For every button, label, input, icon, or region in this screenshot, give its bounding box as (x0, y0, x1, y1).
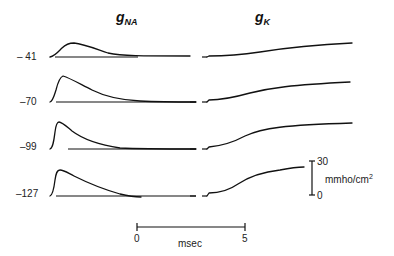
voltage-label-70: –70 (20, 96, 37, 107)
gna-title: gNA (115, 9, 138, 27)
voltage-label-127: –127 (16, 188, 39, 199)
time-scale-bar: 0 5 msec (134, 223, 248, 249)
voltage-label-41: – 41 (17, 51, 37, 62)
time-0-label: 0 (134, 233, 140, 244)
gk-title: gK (254, 9, 272, 27)
gna-traces (50, 43, 196, 197)
conductance-figure: gNA gK – 41 –70 –99 –127 (0, 0, 394, 256)
voltage-label-99: –99 (20, 141, 37, 152)
time-unit-label: msec (178, 238, 202, 249)
scale-0-label: 0 (317, 190, 323, 201)
scale-30-label: 30 (317, 156, 329, 167)
time-5-label: 5 (242, 233, 248, 244)
conductance-unit-label: mmho/cm2 (325, 173, 373, 185)
conductance-scale-bar: 30 0 mmho/cm2 (309, 156, 373, 201)
